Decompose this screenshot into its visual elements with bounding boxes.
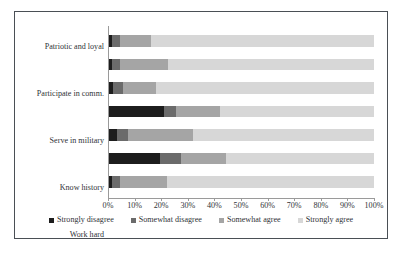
chart-frame: Patriotic and loyalParticipate in comm.S… bbox=[14, 11, 388, 239]
bar-segment bbox=[112, 176, 120, 188]
axis-tick-label: 20% bbox=[154, 202, 169, 210]
bar-row: Participate in comm. bbox=[108, 59, 374, 71]
axis-tick-label: 30% bbox=[180, 202, 195, 210]
legend-swatch-icon bbox=[131, 218, 136, 223]
bar-segment bbox=[123, 82, 156, 94]
category-label: Participate in comm. bbox=[0, 90, 108, 98]
bar-segment bbox=[120, 176, 167, 188]
legend-swatch-icon bbox=[219, 218, 224, 223]
axis-tick-label: 90% bbox=[340, 202, 355, 210]
legend-swatch-icon bbox=[49, 218, 54, 223]
axis-tick-label: 10% bbox=[127, 202, 142, 210]
bar-row: Patriotic and loyal bbox=[108, 35, 374, 47]
axis-tick-label: 80% bbox=[313, 202, 328, 210]
bar-segment bbox=[181, 153, 226, 165]
bar-segment bbox=[108, 153, 160, 165]
category-label: Work hard bbox=[0, 231, 108, 239]
legend-item[interactable]: Somewhat agree bbox=[219, 216, 281, 224]
bar-segment bbox=[160, 153, 181, 165]
axis-tick-label: 50% bbox=[234, 202, 249, 210]
bar-segment bbox=[151, 35, 374, 47]
legend-item[interactable]: Somewhat disagree bbox=[131, 216, 202, 224]
legend-label: Strongly agree bbox=[306, 216, 353, 224]
bar-segment bbox=[113, 82, 122, 94]
legend-label: Strongly disagree bbox=[57, 216, 114, 224]
axis-tick-label: 40% bbox=[207, 202, 222, 210]
bar-segment bbox=[120, 59, 168, 71]
bar-segment bbox=[220, 106, 374, 118]
legend-item[interactable]: Strongly agree bbox=[298, 216, 353, 224]
bar-segment bbox=[226, 153, 374, 165]
bar-segment bbox=[112, 59, 120, 71]
category-label: Serve in military bbox=[0, 137, 108, 145]
bar-segment bbox=[167, 176, 374, 188]
bar-segment bbox=[108, 129, 117, 141]
bar-segment bbox=[176, 106, 220, 118]
bar-row: Obey the law bbox=[108, 176, 374, 188]
bar-row: Know history bbox=[108, 106, 374, 118]
bars-container: Patriotic and loyalParticipate in comm.S… bbox=[108, 29, 374, 194]
axis-tick-label: 100% bbox=[365, 202, 384, 210]
bar-segment bbox=[164, 106, 176, 118]
bar-segment bbox=[168, 59, 374, 71]
bar-row: Serve in military bbox=[108, 82, 374, 94]
bar-segment bbox=[108, 106, 164, 118]
legend-item[interactable]: Strongly disagree bbox=[49, 216, 114, 224]
bar-row: Vote in elections bbox=[108, 153, 374, 165]
category-label: Patriotic and loyal bbox=[0, 43, 108, 51]
legend-label: Somewhat agree bbox=[227, 216, 281, 224]
bar-segment bbox=[120, 35, 151, 47]
bar-segment bbox=[112, 35, 120, 47]
bar-segment bbox=[193, 129, 374, 141]
bar-segment bbox=[117, 129, 128, 141]
y-axis-line bbox=[108, 26, 109, 198]
category-label: Know history bbox=[0, 184, 108, 192]
plot-area: Patriotic and loyalParticipate in comm.S… bbox=[15, 12, 387, 238]
axis-tick-label: 70% bbox=[287, 202, 302, 210]
legend-swatch-icon bbox=[298, 218, 303, 223]
axis-tick-label: 0% bbox=[103, 202, 114, 210]
bar-row: Work hard bbox=[108, 129, 374, 141]
axis-tick-label: 60% bbox=[260, 202, 275, 210]
chart-legend: Strongly disagreeSomewhat disagreeSomewh… bbox=[15, 216, 387, 224]
bar-segment bbox=[128, 129, 193, 141]
legend-label: Somewhat disagree bbox=[139, 216, 202, 224]
bar-segment bbox=[156, 82, 374, 94]
